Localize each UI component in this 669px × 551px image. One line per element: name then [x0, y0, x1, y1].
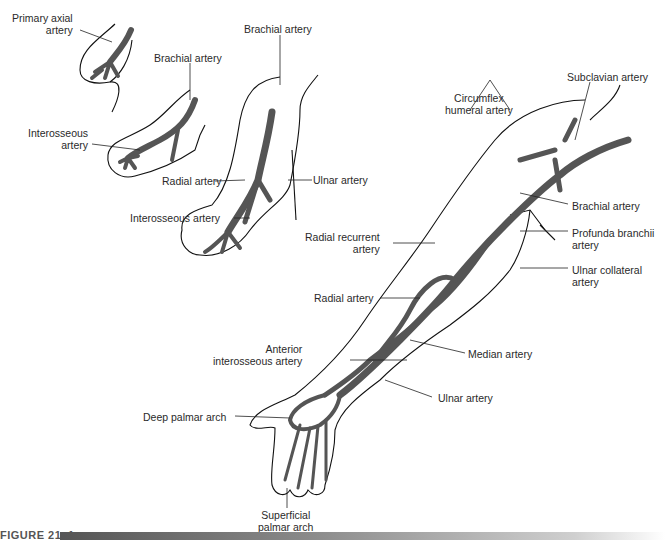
caption-gradient-bar — [60, 532, 665, 540]
label-profunda-branchii-artery: Profunda branchii artery — [572, 227, 654, 251]
label-ulnar-artery-adult: Ulnar artery — [438, 392, 493, 404]
label-line: artery — [305, 243, 380, 255]
label-line: artery — [572, 276, 642, 288]
label-deep-palmar-arch: Deep palmar arch — [143, 411, 226, 423]
adult-arm-outline — [250, 85, 620, 497]
label-line: humeral artery — [445, 104, 513, 116]
label-ulnar-collateral-artery: Ulnar collateral artery — [572, 264, 642, 288]
label-line: Ulnar collateral — [572, 264, 642, 276]
label-interosseous-artery-stage2: Interosseous artery — [28, 127, 88, 151]
label-median-artery: Median artery — [468, 348, 532, 360]
label-line: artery — [12, 24, 73, 36]
label-brachial-artery-stage3: Brachial artery — [244, 23, 312, 35]
label-radial-artery-stage2: Radial artery — [162, 175, 222, 187]
label-line: Primary axial — [12, 12, 73, 24]
label-circumflex-humeral-artery: Circumflex humeral artery — [445, 92, 513, 116]
label-primary-axial-artery: Primary axial artery — [12, 12, 73, 36]
label-line: artery — [28, 139, 88, 151]
label-line: Profunda branchii — [572, 227, 654, 239]
stage-3-limb — [181, 75, 318, 255]
label-line: Circumflex — [445, 92, 513, 104]
label-anterior-interosseous-artery: Anterior interosseous artery — [213, 343, 302, 367]
label-brachial-artery-adult: Brachial artery — [572, 200, 640, 212]
label-line: interosseous artery — [213, 355, 302, 367]
label-interosseous-artery-stage3: Interosseous artery — [130, 212, 220, 224]
label-ulnar-artery-stage3: Ulnar artery — [313, 174, 368, 186]
stage-2-limb — [108, 90, 205, 177]
label-radial-recurrent-artery: Radial recurrent artery — [305, 231, 380, 255]
label-line: Interosseous — [28, 127, 88, 139]
label-brachial-artery-stage2: Brachial artery — [154, 52, 222, 64]
label-line: Radial recurrent — [305, 231, 380, 243]
label-radial-artery-adult: Radial artery — [314, 292, 374, 304]
arm-artery-development-figure: Primary axial artery Brachial artery Int… — [0, 0, 669, 551]
label-superficial-palmar-arch: Superficial palmar arch — [258, 509, 313, 533]
label-line: Superficial — [258, 509, 313, 521]
label-line: Anterior — [213, 343, 302, 355]
label-line: artery — [572, 239, 654, 251]
label-subclavian-artery: Subclavian artery — [567, 71, 648, 83]
